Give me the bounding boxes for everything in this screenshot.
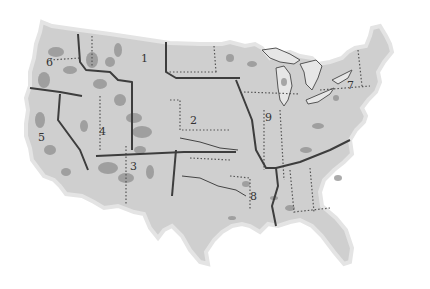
region-label-1: 1 bbox=[141, 52, 148, 65]
region-label-8: 8 bbox=[250, 190, 257, 203]
region-label-6: 6 bbox=[46, 56, 53, 69]
land-mass bbox=[26, 22, 392, 264]
region-label-5: 5 bbox=[38, 131, 45, 144]
region-label-7: 7 bbox=[347, 79, 354, 92]
region-label-2: 2 bbox=[190, 114, 197, 127]
us-region-map: 1 2 3 4 5 6 7 8 9 bbox=[0, 0, 430, 289]
region-label-4: 4 bbox=[99, 125, 106, 138]
region-label-9: 9 bbox=[265, 111, 272, 124]
region-label-3: 3 bbox=[130, 160, 137, 173]
